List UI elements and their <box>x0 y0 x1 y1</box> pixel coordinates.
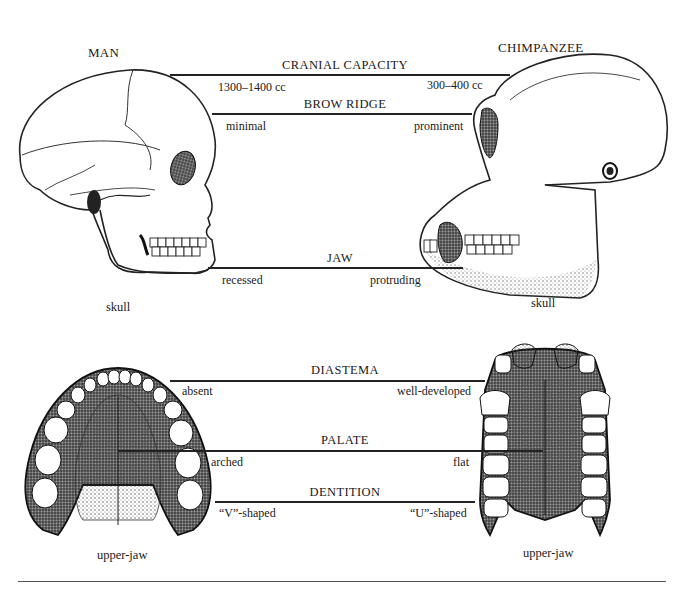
feature-label-cranial-capacity: CRANIAL CAPACITY <box>200 58 490 73</box>
chimpanzee-upper-jaw-illustration <box>470 340 620 540</box>
man-value-brow-ridge: minimal <box>226 119 266 134</box>
comparison-line-brow-ridge <box>212 113 472 115</box>
feature-label-dentition: DENTITION <box>240 485 450 500</box>
man-value-palate: arched <box>211 455 243 470</box>
feature-label-palate: PALATE <box>240 433 450 448</box>
comparison-line-jaw <box>208 267 463 269</box>
man-value-cranial-capacity: 1300–1400 cc <box>218 80 286 95</box>
man-value-diastema: absent <box>182 384 213 399</box>
comparison-line-dentition <box>215 501 475 503</box>
feature-label-brow-ridge: BROW RIDGE <box>220 97 470 112</box>
chimpanzee-upper-jaw-caption: upper-jaw <box>523 546 573 561</box>
feature-label-diastema: DIASTEMA <box>240 363 450 378</box>
chimpanzee-value-palate: flat <box>453 455 469 470</box>
chimpanzee-value-jaw: protruding <box>370 273 421 288</box>
human-skull-illustration <box>0 60 240 290</box>
chimpanzee-value-cranial-capacity: 300–400 cc <box>427 78 483 93</box>
comparison-line-diastema <box>170 380 485 382</box>
man-title: MAN <box>88 45 119 61</box>
chimpanzee-value-diastema: well-developed <box>397 384 471 399</box>
comparison-line-cranial-capacity <box>170 74 510 76</box>
chimpanzee-value-dentition: “U”-shaped <box>410 506 467 521</box>
chimpanzee-skull-caption: skull <box>531 296 555 311</box>
figure-bottom-rule <box>18 581 666 582</box>
man-upper-jaw-caption: upper-jaw <box>97 548 147 563</box>
chimpanzee-value-brow-ridge: prominent <box>414 119 463 134</box>
man-skull-caption: skull <box>106 300 130 315</box>
comparison-line-palate <box>118 450 543 452</box>
man-value-jaw: recessed <box>222 273 263 288</box>
man-value-dentition: “V”-shaped <box>219 506 276 521</box>
feature-label-jaw: JAW <box>290 251 390 266</box>
